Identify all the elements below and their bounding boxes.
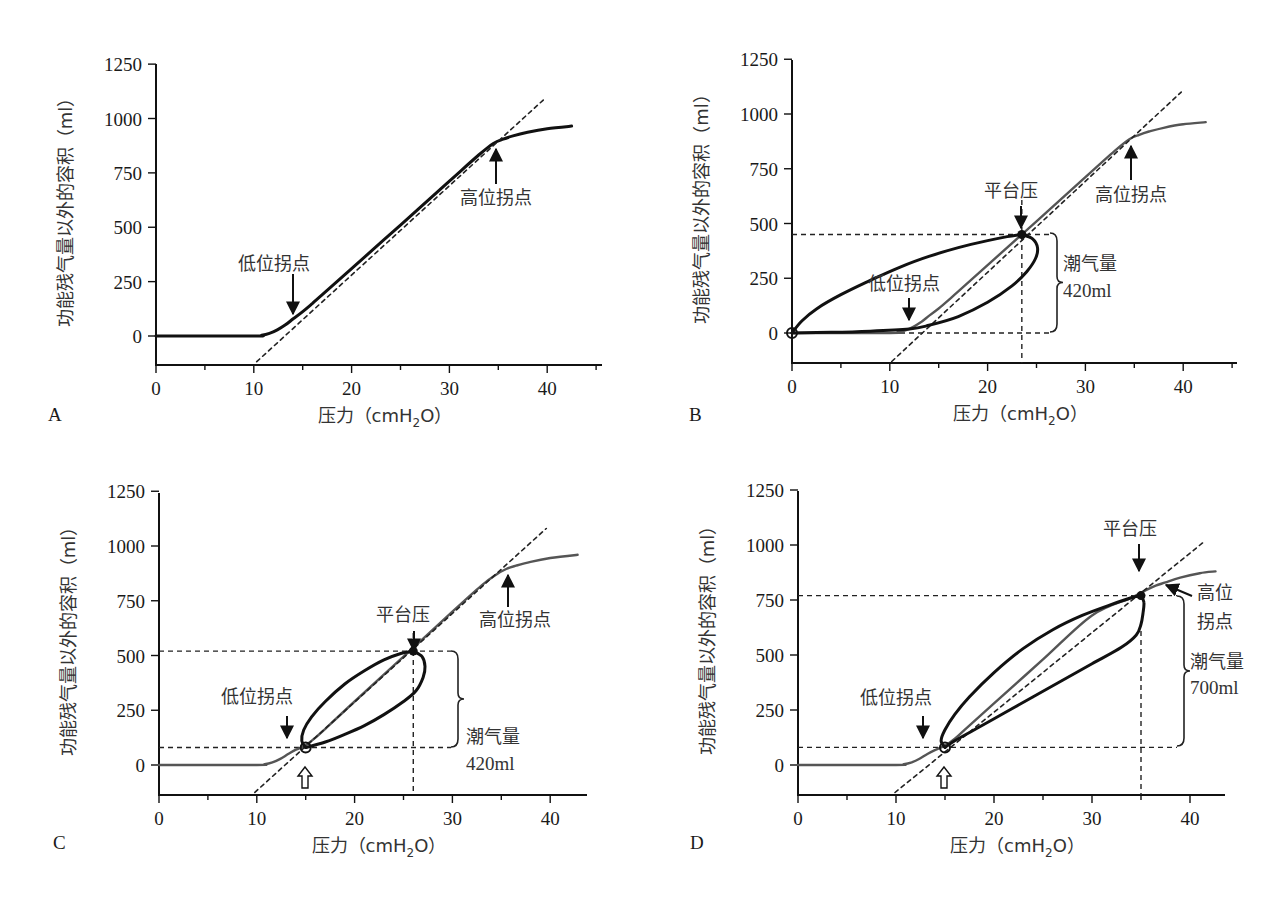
y-tick-label: 1000 — [746, 535, 784, 556]
y-tick-label: 250 — [756, 700, 785, 721]
x-tick-label: 20 — [978, 376, 997, 397]
x-tick-label: 10 — [244, 378, 263, 399]
x-axis-title: 压力（cmH2O） — [318, 405, 453, 430]
axes: 025050075010001250010203040 — [107, 481, 587, 829]
y-tick-label: 1000 — [740, 104, 778, 125]
y-tick-label: 0 — [775, 755, 785, 776]
tidal-volume-brace — [1050, 233, 1063, 332]
plateau-point-marker — [1137, 591, 1146, 600]
panel-letter: D — [690, 832, 704, 853]
annotation-label: 420ml — [466, 753, 515, 774]
annotation-label: 高位 — [1197, 582, 1233, 603]
panel-a-chart: 025050075010001250010203040压力（cmH2O）功能残气… — [55, 54, 602, 430]
x-tick-label: 40 — [1174, 376, 1193, 397]
x-tick-label: 10 — [247, 808, 266, 829]
y-tick-label: 250 — [114, 272, 143, 293]
tangent-dashed-line — [895, 543, 1203, 793]
pv-curve-figure: 025050075010001250010203040压力（cmH2O）功能残气… — [0, 0, 1287, 901]
y-axis-title: 功能残气量以外的容积（ml） — [697, 517, 718, 756]
annotation-label: 平台压 — [376, 604, 430, 625]
pv-curve-line — [156, 126, 572, 336]
y-axis-title: 功能残气量以外的容积（ml） — [691, 85, 712, 324]
x-tick-label: 0 — [793, 808, 803, 829]
panel-letter: C — [53, 832, 66, 853]
axes: 025050075010001250010203040 — [740, 49, 1237, 397]
peep-hollow-arrow-icon — [937, 767, 951, 788]
y-tick-label: 250 — [117, 700, 146, 721]
panel-b-chart: 025050075010001250010203040压力（cmH2O）功能残气… — [691, 49, 1237, 428]
y-tick-label: 0 — [769, 323, 779, 344]
y-tick-label: 500 — [114, 217, 143, 238]
tidal-volume-brace — [1177, 596, 1190, 746]
x-tick-label: 20 — [345, 808, 364, 829]
x-tick-label: 0 — [787, 376, 797, 397]
panel-d-chart: 025050075010001250010203040压力（cmH2O）功能残气… — [697, 480, 1244, 860]
y-tick-label: 750 — [750, 159, 779, 180]
annotation-label: 高位拐点 — [1095, 184, 1167, 205]
pv-curve-line — [798, 571, 1216, 765]
y-tick-label: 1250 — [746, 480, 784, 501]
breathing-loop-branch — [306, 651, 425, 747]
annotation-label: 低位拐点 — [860, 687, 932, 708]
peep-hollow-arrow-icon — [298, 767, 312, 788]
y-axis-title: 功能残气量以外的容积（ml） — [55, 89, 76, 328]
y-tick-label: 500 — [750, 214, 779, 235]
y-tick-label: 1000 — [104, 109, 142, 130]
tangent-dashed-line — [892, 92, 1181, 361]
y-tick-label: 500 — [756, 645, 785, 666]
x-tick-label: 40 — [1181, 808, 1200, 829]
panel-c-chart: 025050075010001250010203040压力（cmH2O）功能残气… — [58, 481, 587, 860]
x-tick-label: 10 — [880, 376, 899, 397]
x-tick-label: 40 — [538, 378, 557, 399]
x-tick-label: 30 — [443, 808, 462, 829]
x-tick-label: 40 — [541, 808, 560, 829]
annotation-label: 高位拐点 — [479, 609, 551, 630]
x-axis-title: 压力（cmH2O） — [312, 835, 447, 860]
panel-letter: A — [48, 404, 62, 425]
x-tick-label: 0 — [154, 808, 164, 829]
tidal-volume-brace — [451, 651, 464, 747]
x-tick-label: 30 — [1076, 376, 1095, 397]
x-axis-title: 压力（cmH2O） — [953, 403, 1088, 428]
pv-curve-line — [792, 122, 1206, 333]
annotation-label: 低位拐点 — [221, 686, 293, 707]
plateau-point-marker — [1017, 230, 1026, 239]
tangent-dashed-line — [257, 100, 544, 362]
panel-letters: ABCD — [48, 404, 704, 853]
y-tick-label: 0 — [133, 326, 143, 347]
x-tick-label: 0 — [151, 378, 161, 399]
y-tick-label: 750 — [756, 590, 785, 611]
annotation-label: 平台压 — [1103, 518, 1157, 539]
axes: 025050075010001250010203040 — [104, 54, 602, 399]
arrow-diagonal-icon — [1166, 585, 1192, 596]
annotation-label: 平台压 — [984, 180, 1038, 201]
y-tick-label: 500 — [117, 646, 146, 667]
y-tick-label: 1250 — [740, 49, 778, 70]
annotation-label: 潮气量 — [1063, 253, 1117, 274]
annotation-label: 高位拐点 — [460, 187, 532, 208]
x-tick-label: 20 — [342, 378, 361, 399]
y-tick-label: 750 — [114, 163, 143, 184]
y-tick-label: 750 — [117, 591, 146, 612]
x-tick-label: 10 — [887, 808, 906, 829]
y-tick-label: 1250 — [104, 54, 142, 75]
annotation-label: 拐点 — [1197, 611, 1233, 632]
annotation-label: 700ml — [1190, 677, 1239, 698]
x-tick-label: 30 — [440, 378, 459, 399]
panel-letter: B — [689, 404, 702, 425]
y-tick-label: 0 — [136, 755, 146, 776]
annotation-label: 潮气量 — [466, 726, 520, 747]
y-axis-title: 功能残气量以外的容积（ml） — [58, 518, 79, 757]
annotation-label: 420ml — [1063, 280, 1112, 301]
x-tick-label: 20 — [985, 808, 1004, 829]
annotation-label: 潮气量 — [1190, 651, 1244, 672]
y-tick-label: 1000 — [107, 536, 145, 557]
x-tick-label: 30 — [1083, 808, 1102, 829]
annotation-label: 低位拐点 — [238, 253, 310, 274]
y-tick-label: 250 — [750, 268, 779, 289]
y-tick-label: 1250 — [107, 481, 145, 502]
annotation-label: 低位拐点 — [868, 273, 940, 294]
x-axis-title: 压力（cmH2O） — [950, 835, 1085, 860]
